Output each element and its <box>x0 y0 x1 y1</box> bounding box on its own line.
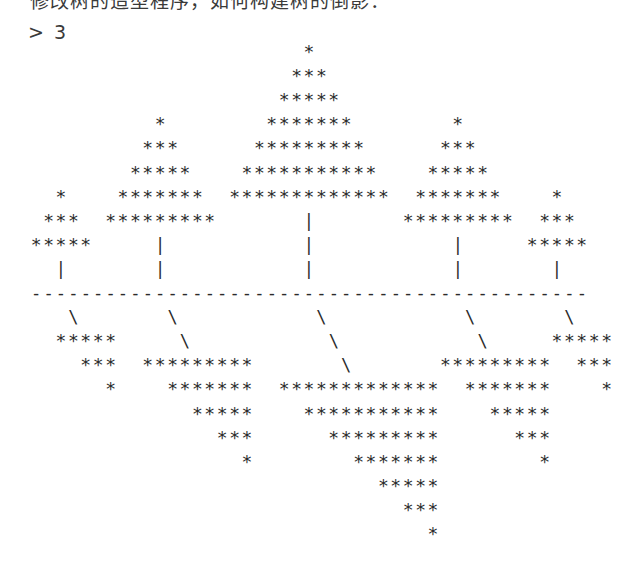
tree-4-shadow-leaf-glyph: * <box>538 402 550 426</box>
tree-3-leaf-glyph: * <box>266 161 278 185</box>
ground-line-glyph: - <box>526 281 538 305</box>
tree-2-shadow-leaf-glyph: * <box>241 450 253 474</box>
tree-4-shadow-leaf-glyph: * <box>538 353 550 377</box>
tree-3-shadow-leaf-glyph: * <box>427 402 439 426</box>
tree-3-shadow-trunk-glyph: \ <box>328 329 340 353</box>
tree-2-leaf-glyph: * <box>179 161 191 185</box>
tree-4-leaf-glyph: * <box>439 136 451 160</box>
ground-line-glyph: - <box>427 281 439 305</box>
tree-4-leaf-glyph: * <box>427 161 439 185</box>
ground-line-glyph: - <box>390 281 402 305</box>
tree-2-shadow-leaf-glyph: * <box>216 402 228 426</box>
tree-3-shadow-leaf-glyph: * <box>328 377 340 401</box>
tree-2-leaf-glyph: * <box>142 185 154 209</box>
tree-3-leaf-glyph: * <box>328 88 340 112</box>
tree-3-leaf-glyph: * <box>315 64 327 88</box>
tree-4-leaf-glyph: * <box>414 209 426 233</box>
tree-3-shadow-leaf-glyph: * <box>414 377 426 401</box>
tree-5-leaf-glyph: * <box>551 185 563 209</box>
tree-3-leaf-glyph: * <box>241 185 253 209</box>
tree-3-shadow-leaf-glyph: * <box>365 426 377 450</box>
tree-3-leaf-glyph: * <box>290 136 302 160</box>
tree-2-leaf-glyph: * <box>117 185 129 209</box>
tree-3-shadow-leaf-glyph: * <box>377 474 389 498</box>
ground-line-glyph: - <box>166 281 178 305</box>
tree-3-shadow-trunk-glyph: \ <box>340 353 352 377</box>
tree-1-shadow-leaf-glyph: * <box>55 329 67 353</box>
tree-3-leaf-glyph: * <box>266 112 278 136</box>
ground-line-glyph: - <box>266 281 278 305</box>
ground-line-glyph: - <box>514 281 526 305</box>
tree-5-leaf-glyph: * <box>563 233 575 257</box>
ground-line-glyph: - <box>315 281 327 305</box>
tree-3-leaf-glyph: * <box>278 88 290 112</box>
ground-line-glyph: - <box>576 281 588 305</box>
ground-line-glyph: - <box>303 281 315 305</box>
ground-line-glyph: - <box>489 281 501 305</box>
tree-2-leaf-glyph: * <box>104 209 116 233</box>
tree-4-shadow-leaf-glyph: * <box>538 377 550 401</box>
ground-line-glyph: - <box>340 281 352 305</box>
tree-4-leaf-glyph: * <box>452 136 464 160</box>
tree-3-leaf-glyph: * <box>328 136 340 160</box>
tree-3-shadow-leaf-glyph: * <box>427 498 439 522</box>
tree-3-leaf-glyph: * <box>303 64 315 88</box>
ground-line-glyph: - <box>117 281 129 305</box>
tree-4-leaf-glyph: * <box>489 209 501 233</box>
tree-4-shadow-leaf-glyph: * <box>501 353 513 377</box>
ground-line-glyph: - <box>154 281 166 305</box>
tree-3-shadow-leaf-glyph: * <box>365 377 377 401</box>
tree-5-leaf-glyph: * <box>538 233 550 257</box>
tree-3-shadow-leaf-glyph: * <box>427 522 439 546</box>
tree-2-shadow-leaf-glyph: * <box>179 377 191 401</box>
tree-4-leaf-glyph: * <box>439 209 451 233</box>
tree-1-trunk-glyph: | <box>55 257 67 281</box>
tree-4-leaf-glyph: * <box>464 209 476 233</box>
tree-5-shadow-leaf-glyph: * <box>600 377 612 401</box>
tree-3-shadow-leaf-glyph: * <box>328 426 340 450</box>
tree-4-shadow-leaf-glyph: * <box>526 402 538 426</box>
tree-3-shadow-leaf-glyph: * <box>390 377 402 401</box>
tree-3-shadow-leaf-glyph: * <box>427 426 439 450</box>
tree-4-leaf-glyph: * <box>464 161 476 185</box>
ground-line-glyph: - <box>439 281 451 305</box>
tree-5-shadow-leaf-glyph: * <box>563 329 575 353</box>
tree-4-leaf-glyph: * <box>402 209 414 233</box>
tree-4-shadow-leaf-glyph: * <box>514 353 526 377</box>
ground-line-glyph: - <box>563 281 575 305</box>
tree-3-leaf-glyph: * <box>278 136 290 160</box>
tree-3-leaf-glyph: * <box>303 40 315 64</box>
ground-line-glyph: - <box>80 281 92 305</box>
tree-2-leaf-glyph: * <box>166 185 178 209</box>
tree-3-leaf-glyph: * <box>340 112 352 136</box>
tree-3-leaf-glyph: * <box>290 161 302 185</box>
tree-2-leaf-glyph: * <box>166 209 178 233</box>
tree-2-shadow-leaf-glyph: * <box>216 377 228 401</box>
ground-line-glyph: - <box>476 281 488 305</box>
tree-5-leaf-glyph: * <box>576 233 588 257</box>
tree-3-leaf-glyph: * <box>303 136 315 160</box>
tree-2-shadow-leaf-glyph: * <box>154 353 166 377</box>
tree-4-leaf-glyph: * <box>452 161 464 185</box>
console-prompt: >3 <box>28 20 66 44</box>
tree-4-leaf-glyph: * <box>501 209 513 233</box>
tree-2-shadow-leaf-glyph: * <box>216 353 228 377</box>
ground-line-glyph: - <box>241 281 253 305</box>
tree-2-shadow-leaf-glyph: * <box>241 426 253 450</box>
tree-1-leaf-glyph: * <box>55 185 67 209</box>
tree-4-shadow-leaf-glyph: * <box>526 426 538 450</box>
tree-3-leaf-glyph: * <box>365 161 377 185</box>
tree-2-leaf-glyph: * <box>166 136 178 160</box>
ground-line-glyph: - <box>278 281 290 305</box>
tree-5-shadow-leaf-glyph: * <box>588 353 600 377</box>
tree-3-leaf-glyph: * <box>241 161 253 185</box>
tree-3-shadow-leaf-glyph: * <box>328 402 340 426</box>
ground-line-glyph: - <box>414 281 426 305</box>
tree-1-leaf-glyph: * <box>55 233 67 257</box>
ground-line-glyph: - <box>30 281 42 305</box>
tree-1-leaf-glyph: * <box>55 209 67 233</box>
tree-3-leaf-glyph: * <box>328 185 340 209</box>
ground-line-glyph: - <box>92 281 104 305</box>
tree-3-shadow-leaf-glyph: * <box>390 474 402 498</box>
tree-4-shadow-leaf-glyph: * <box>526 377 538 401</box>
